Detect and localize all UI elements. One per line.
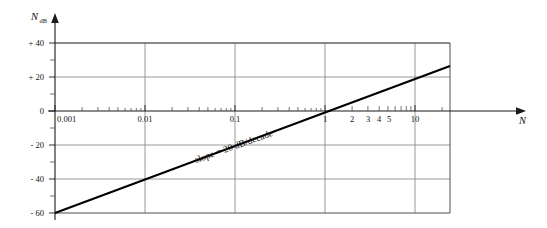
y-axis-title-subscript: dB	[40, 17, 48, 24]
x-axis	[48, 107, 526, 115]
slope-annotation-group: slope = 20 dB/decade	[193, 128, 274, 165]
y-label-minus-20: - 20	[31, 140, 44, 150]
plot-frame	[55, 43, 450, 213]
x-label-2: 2	[350, 114, 354, 124]
x-minor-ticks-decade-3	[262, 107, 321, 111]
axis-names: N dB N	[30, 11, 527, 126]
x-label-0.01: 0.01	[138, 114, 153, 124]
y-minor-ticks	[50, 60, 55, 196]
y-label-minus-60: - 60	[31, 208, 44, 218]
x-label-0.1: 0.1	[230, 114, 241, 124]
x-label-5: 5	[387, 114, 391, 124]
y-label-zero: 0	[40, 106, 44, 116]
y-label-plus-40: + 40	[29, 38, 44, 48]
x-label-10: 10	[411, 114, 420, 124]
y-label-minus-40: - 40	[31, 174, 44, 184]
x-axis-title: N	[518, 115, 527, 126]
x-label-0.001: 0.001	[57, 114, 76, 124]
y-tick-labels: + 40 + 20 0 - 20 - 40 - 60	[29, 38, 44, 218]
slope-annotation: slope = 20 dB/decade	[193, 128, 274, 165]
y-axis-title: N	[30, 11, 39, 22]
x-axis-arrowhead	[516, 107, 526, 115]
log-plot-chart: + 40 + 20 0 - 20 - 40 - 60 0.001 0.01 0.…	[0, 0, 547, 228]
y-axis-arrowhead	[51, 13, 59, 23]
x-tick-labels: 0.001 0.01 0.1 1 2 3 4 5 10	[57, 114, 419, 124]
y-label-plus-20: + 20	[29, 72, 44, 82]
x-label-4: 4	[377, 114, 382, 124]
vertical-gridlines	[145, 43, 415, 213]
figure-container: + 40 + 20 0 - 20 - 40 - 60 0.001 0.01 0.…	[0, 0, 547, 228]
x-minor-ticks-decade-4	[352, 106, 411, 111]
x-label-1: 1	[323, 114, 327, 124]
x-label-3: 3	[366, 114, 370, 124]
x-minor-ticks-decade-1	[82, 107, 141, 111]
x-minor-ticks-decade-2	[172, 107, 231, 111]
